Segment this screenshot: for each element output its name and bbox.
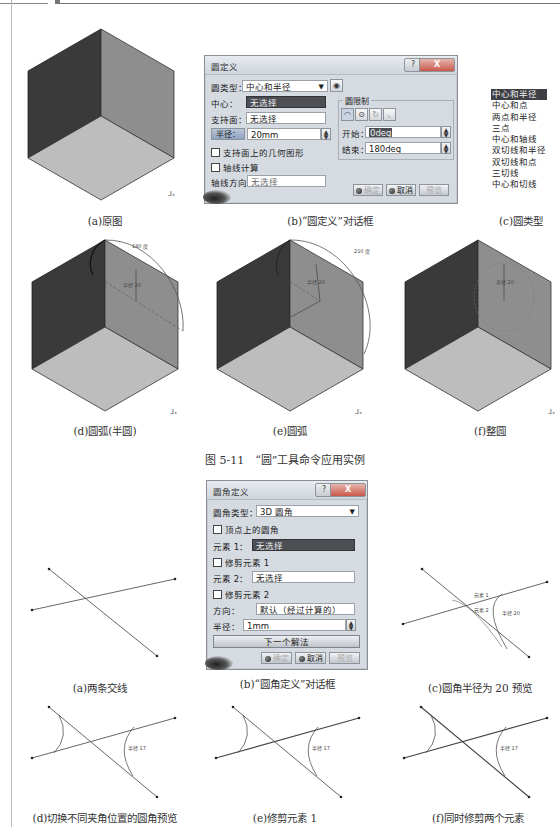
axis-triad-icon: ⅃ₓ [548,408,555,416]
circle-type-option[interactable]: 中心和轴线 [491,134,547,145]
caption-corner-e: (e)修剪元素 1 [245,810,325,825]
ok-button[interactable]: 确定 [261,652,292,664]
cube-arc-half-figure: 半径 20 180 度 [31,239,191,419]
svg-text:元素 1: 元素 1 [474,592,489,599]
next-solution-button[interactable]: 下一个解法 [213,635,360,648]
axis-direction-field[interactable]: 无选择 [247,175,326,187]
caption-d: (d)圆弧(半圆) [65,423,145,438]
radius-label: 半径： [213,620,240,632]
cancel-label: 取消 [397,186,413,195]
cancel-button[interactable]: 取消 [295,652,326,664]
element1-label: 元素 1： [213,540,248,552]
dialog-title: 圆定义 [211,60,238,72]
axis-triad-icon: ⅃ₓ [170,408,177,416]
circle-type-option[interactable]: 两点和半径 [491,112,547,123]
circle-type-option[interactable]: 双切线和点 [491,157,547,168]
trim-element1-checkbox[interactable]: 修剪元素 1 [213,556,269,568]
element1-field[interactable]: 无选择 [252,539,355,551]
circle-type-option[interactable]: 中心和切线 [491,179,547,190]
full-circle-mode-button[interactable]: ⊙ [355,108,368,121]
axis-triad-icon: ⅃ₓ [168,190,175,198]
corner-definition-dialog: 圆角定义 ? X 圆角类型： 3D 圆角▼ 顶点上的圆角 元素 1： 无选择 修… [206,480,368,670]
caption-corner-a: (a)两条交线 [60,680,140,695]
circle-type-option[interactable]: 中心和半径 [491,89,547,100]
cancel-icon [389,188,395,194]
radius-button[interactable]: 半径： [211,128,245,140]
angle-annotation: 210 度 [354,248,370,255]
caption-b: (b)“圆定义”对话框 [270,213,390,228]
caption-corner-f: (f)同时修剪两个元素 [428,810,528,825]
ok-icon [356,188,362,194]
circle-type-icon-button[interactable]: ◉ [330,79,343,92]
checkbox-box[interactable] [211,148,220,157]
caption-corner-c: (c)圆角半径为 20 预览 [425,680,535,695]
preview-button[interactable]: 预览 [419,184,449,196]
caption-a: (a)原图 [75,213,135,228]
circle-type-option[interactable]: 双切线和半径 [491,145,547,156]
trim-mode-button[interactable]: ↻ [369,108,382,121]
preview-button[interactable]: 预览 [329,652,360,664]
axis-computation-label: 轴线计算 [223,163,259,173]
ok-button[interactable]: 确定 [353,184,383,196]
catia-logo-icon [203,190,231,204]
corner-radius-20-preview-figure: 元素 1 元素 2 半径 20 [402,567,552,662]
corner-type-value: 3D 圆角 [260,507,293,517]
radius-annotation: 半径 17 [128,745,146,752]
trim-element1-label: 修剪元素 1 [225,558,269,568]
corner-type-select[interactable]: 3D 圆角▼ [256,505,359,517]
cube-full-circle-figure: 半径 20 [404,239,560,419]
radius-field[interactable]: 1mm [243,619,346,631]
direction-field[interactable]: 默认（经过计算的） [256,603,355,615]
trim-both-elements-figure: 半径 17 [402,706,552,798]
radius-field[interactable]: 20mm [247,128,321,140]
page-header-rule [0,0,560,5]
complement-mode-button[interactable]: ⌞ [383,108,396,121]
vertex-corner-checkbox[interactable]: 顶点上的圆角 [213,523,279,535]
dialog-title: 圆角定义 [213,485,249,497]
end-spinner[interactable]: ▲▼ [441,142,451,154]
circle-limits-title: 圆限制 [343,95,371,106]
chevron-down-icon: ▼ [319,81,324,93]
support-label: 支持面： [211,113,247,125]
cube-arc-figure: 半径 20 210 度 [216,239,376,419]
support-field[interactable]: 无选择 [246,112,326,124]
checkbox-box[interactable] [213,590,222,599]
radius-annotation: 半径 20 [496,279,514,286]
radius-annotation: 半径 20 [307,279,325,286]
geometry-on-support-label: 支持面上的几何图形 [223,148,304,158]
center-field[interactable]: 无选择 [246,96,326,108]
vertex-corner-label: 顶点上的圆角 [225,525,279,535]
close-button[interactable]: X [330,483,366,497]
circle-type-list: 中心和半径 中心和点 两点和半径 三点 中心和轴线 双切线和半径 双切线和点 三… [491,89,547,191]
circle-type-option[interactable]: 三切线 [491,168,547,179]
geometry-on-support-checkbox[interactable]: 支持面上的几何图形 [211,146,304,158]
figure-5-11-title: 图 5-11 “圆”工具命令应用实例 [205,451,365,467]
close-button[interactable]: X [419,58,455,72]
caption-f: (f)整圆 [465,423,515,438]
axis-computation-checkbox[interactable]: 轴线计算 [211,161,259,173]
cancel-label: 取消 [307,654,323,663]
page-margin-line [11,0,12,827]
cancel-button[interactable]: 取消 [386,184,416,196]
arc-mode-button[interactable]: ◠ [341,108,354,121]
end-field[interactable]: 180deg [365,142,441,154]
circle-type-option[interactable]: 中心和点 [491,100,547,111]
radius-spinner[interactable]: ▲▼ [346,619,356,631]
direction-label: 方向： [213,604,240,616]
chevron-down-icon: ▼ [350,506,355,518]
radius-spinner[interactable]: ▲▼ [321,128,331,140]
circle-type-option[interactable]: 三点 [491,123,547,134]
svg-text:元素 2: 元素 2 [474,607,489,614]
checkbox-box[interactable] [213,558,222,567]
center-label: 中心： [211,97,238,109]
trim-element2-checkbox[interactable]: 修剪元素 2 [213,588,269,600]
caption-corner-b: (b)“圆角定义”对话框 [225,676,350,691]
caption-corner-d: (d)切换不同夹角位置的圆角预览 [30,810,180,825]
checkbox-box[interactable] [213,525,222,534]
circle-type-select[interactable]: 中心和半径▼ [242,80,328,92]
circle-definition-dialog: 圆定义 ? X 圆类型： 中心和半径▼ ◉ 中心： 无选择 支持面： 无选择 半… [204,55,458,204]
checkbox-box[interactable] [211,163,220,172]
element2-field[interactable]: 无选择 [252,571,355,583]
start-field[interactable]: 0deg [365,126,441,138]
start-spinner[interactable]: ▲▼ [441,126,451,138]
